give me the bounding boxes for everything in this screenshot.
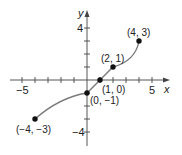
- point-2-1: [110, 64, 115, 69]
- point-label-neg4-neg3: (−4, −3): [16, 124, 51, 135]
- x-axis: [10, 77, 170, 83]
- point-neg4-neg3: [32, 116, 37, 121]
- y-tick-label-neg4: −4: [72, 126, 85, 138]
- function-graph: x y −5 5 4 −4 (−4, −3) (0, −1) (1, 0) (2…: [0, 0, 182, 155]
- point-label-1-0: (1, 0): [102, 84, 125, 95]
- point-4-3: [136, 38, 141, 43]
- x-tick-label-5: 5: [149, 84, 155, 96]
- point-label-4-3: (4, 3): [127, 27, 150, 38]
- point-label-0-neg1: (0, −1): [90, 95, 119, 106]
- x-axis-label: x: [163, 83, 170, 95]
- x-tick-label-neg5: −5: [16, 84, 29, 96]
- y-axis: [84, 10, 90, 146]
- point-0-neg1: [84, 90, 89, 95]
- point-1-0: [97, 77, 102, 82]
- y-axis-label: y: [77, 7, 85, 19]
- point-label-2-1: (2, 1): [101, 53, 124, 64]
- y-tick-label-4: 4: [77, 22, 83, 34]
